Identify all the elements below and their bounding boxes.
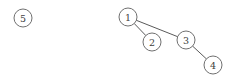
graph-edge-3-4 [193, 46, 207, 59]
graph-node-3[interactable]: 3 [177, 31, 195, 49]
graph-node-label-1: 1 [125, 12, 131, 23]
graph-node-label-2: 2 [149, 37, 155, 48]
graph-node-2[interactable]: 2 [143, 33, 161, 51]
graph-canvas-svg: 51234 [0, 0, 235, 84]
graph-node-5[interactable]: 5 [14, 9, 32, 27]
graph-node-4[interactable]: 4 [204, 56, 222, 74]
graph-node-label-5: 5 [20, 13, 26, 24]
graph-nodes-layer: 51234 [14, 8, 222, 74]
graph-diagram: 51234 [0, 0, 235, 84]
graph-node-label-4: 4 [210, 60, 216, 71]
graph-node-label-3: 3 [183, 35, 189, 46]
graph-node-1[interactable]: 1 [119, 8, 137, 26]
graph-edge-1-2 [134, 23, 146, 35]
